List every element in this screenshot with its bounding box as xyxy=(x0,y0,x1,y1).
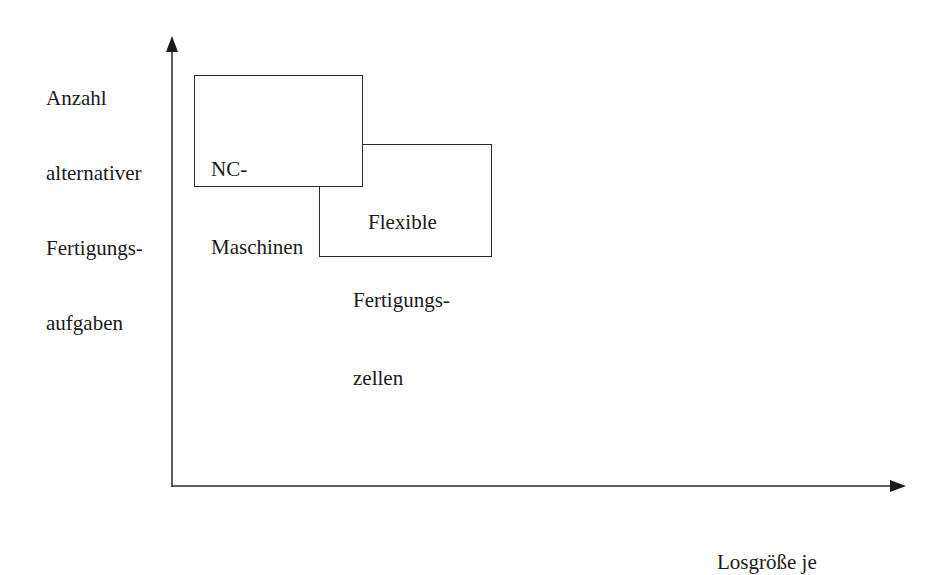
box-label: Flexible Fertigungs- zellen xyxy=(353,157,450,443)
box-label-line: zellen xyxy=(353,365,450,391)
y-axis-label-line: alternativer xyxy=(46,161,143,186)
y-axis-label-line: aufgaben xyxy=(46,311,143,336)
box-label-line: Maschinen xyxy=(211,234,303,260)
x-axis-label-line: Losgröße je xyxy=(717,550,866,575)
box-label: NC- Maschinen xyxy=(211,104,303,312)
box-label-line: NC- xyxy=(211,156,303,182)
box-label-line: Fertigungs- xyxy=(321,287,450,313)
box-nc-maschinen: NC- Maschinen xyxy=(194,75,363,187)
y-axis-label-line: Anzahl xyxy=(46,86,143,111)
x-axis-arrow-icon xyxy=(890,480,906,492)
y-axis-label: Anzahl alternativer Fertigungs- aufgaben xyxy=(46,36,143,361)
x-axis-label: Losgröße je Fertigungsauftrag xyxy=(717,500,866,575)
y-axis-arrow-icon xyxy=(166,36,178,52)
box-label-line: Flexible xyxy=(353,209,450,235)
y-axis-label-line: Fertigungs- xyxy=(46,236,143,261)
